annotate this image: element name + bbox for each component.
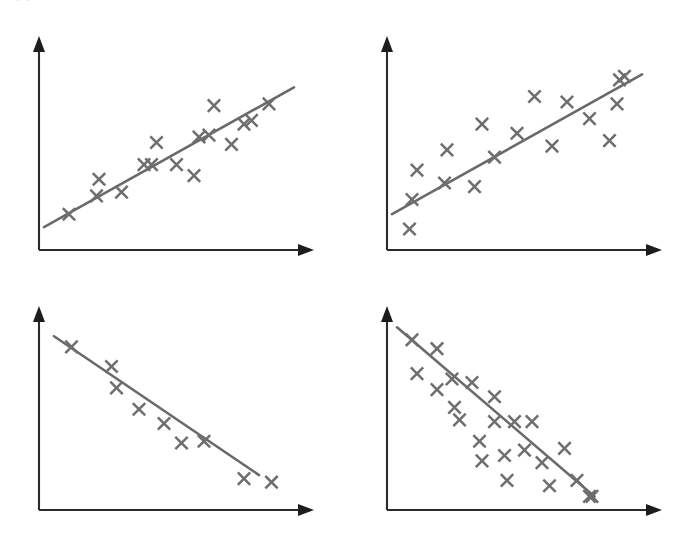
data-point-marker xyxy=(571,474,583,486)
data-point-marker xyxy=(476,118,488,130)
regression-line xyxy=(54,336,259,475)
data-point-marker xyxy=(203,129,215,141)
data-point-marker xyxy=(558,442,570,454)
data-point-marker xyxy=(508,415,520,427)
data-point-marker xyxy=(536,456,548,468)
data-point-marker xyxy=(238,472,250,484)
data-point-marker xyxy=(526,415,538,427)
scatter-plot-svg-top-right xyxy=(370,32,670,260)
data-point-marker xyxy=(468,180,480,192)
data-point-marker xyxy=(93,173,105,185)
data-point-marker xyxy=(476,455,488,467)
data-point-marker xyxy=(518,444,530,456)
data-point-marker xyxy=(546,140,558,152)
scatter-panel-bottom-left xyxy=(22,302,322,520)
data-point-marker xyxy=(441,144,453,156)
scatter-panel-bottom-right xyxy=(370,302,670,520)
data-point-marker xyxy=(603,134,615,146)
y-axis-arrowhead xyxy=(381,306,393,322)
data-point-marker xyxy=(225,138,237,150)
x-axis-arrowhead xyxy=(646,244,662,256)
scatter-panel-top-right xyxy=(370,32,670,260)
fit-line-group-bottom-right xyxy=(397,327,595,496)
x-axis-arrowhead xyxy=(646,504,662,516)
data-points-top-right xyxy=(403,70,630,235)
y-axis-arrowhead xyxy=(381,36,393,52)
data-point-marker xyxy=(170,158,182,170)
data-point-marker xyxy=(528,90,540,102)
scatter-plot-svg-bottom-right xyxy=(370,302,670,520)
data-point-marker xyxy=(431,343,443,355)
x-axis-arrowhead xyxy=(298,504,314,516)
data-point-marker xyxy=(583,112,595,124)
scatter-plot-svg-bottom-left xyxy=(22,302,322,520)
data-point-marker xyxy=(488,391,500,403)
data-point-marker xyxy=(511,127,523,139)
clipped-caption-text: + 0 0 ++++++ ++ +++++ xyxy=(4,0,134,3)
data-point-marker xyxy=(65,341,77,353)
data-point-marker xyxy=(586,490,598,502)
data-point-marker xyxy=(618,70,630,82)
scatter-plot-svg-top-left xyxy=(22,32,322,260)
data-point-marker xyxy=(501,474,513,486)
data-point-marker xyxy=(150,136,162,148)
y-axis-arrowhead xyxy=(33,36,45,52)
data-point-marker xyxy=(498,449,510,461)
axes-top-right xyxy=(381,36,662,256)
data-point-marker xyxy=(448,401,460,413)
scatter-panel-top-left xyxy=(22,32,322,260)
axes-bottom-right xyxy=(381,306,662,516)
data-point-marker xyxy=(208,99,220,111)
data-point-marker xyxy=(188,169,200,181)
scatterplot-figure: + 0 0 ++++++ ++ +++++ xyxy=(0,0,693,538)
data-point-marker xyxy=(453,414,465,426)
data-point-marker xyxy=(611,98,623,110)
data-point-marker xyxy=(543,480,555,492)
data-point-marker xyxy=(488,151,500,163)
data-point-marker xyxy=(105,360,117,372)
data-point-marker xyxy=(411,367,423,379)
data-point-marker xyxy=(488,415,500,427)
data-point-marker xyxy=(403,223,415,235)
data-point-marker xyxy=(175,437,187,449)
fit-line-group-top-left xyxy=(44,87,294,227)
data-point-marker xyxy=(561,96,573,108)
axes-top-left xyxy=(33,36,314,256)
regression-line xyxy=(44,87,294,227)
fit-line-group-bottom-left xyxy=(54,336,259,475)
data-point-marker xyxy=(115,186,127,198)
data-point-marker xyxy=(110,382,122,394)
x-axis-arrowhead xyxy=(298,244,314,256)
axes-bottom-left xyxy=(33,306,314,516)
data-point-marker xyxy=(431,383,443,395)
data-point-marker xyxy=(411,164,423,176)
data-point-marker xyxy=(133,403,145,415)
data-point-marker xyxy=(406,334,418,346)
data-point-marker xyxy=(265,476,277,488)
data-point-marker xyxy=(466,376,478,388)
data-point-marker xyxy=(158,417,170,429)
data-point-marker xyxy=(473,435,485,447)
y-axis-arrowhead xyxy=(33,306,45,322)
regression-line xyxy=(397,327,595,496)
